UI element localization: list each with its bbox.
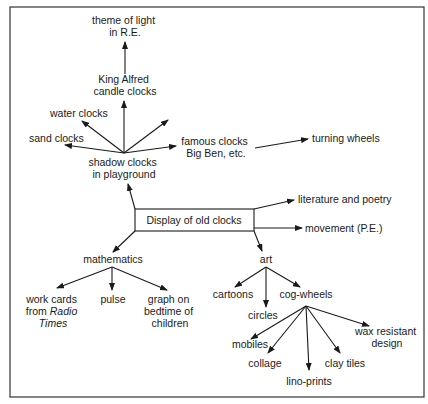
node-sand-clocks: sand clocks <box>29 132 84 144</box>
node-wax-resistant: wax resistant design <box>354 325 419 349</box>
edge-center-shadow <box>128 184 135 209</box>
edge-cog-lino <box>306 306 309 370</box>
edge-famous-turning <box>255 139 308 148</box>
edge-center-maths <box>113 231 135 252</box>
mind-map-diagram: Display of old clocks theme of light in … <box>0 0 428 404</box>
node-movement: movement (P.E.) <box>305 222 382 234</box>
edge-center-literature <box>254 200 294 209</box>
edge-art-cartoons <box>235 267 266 287</box>
edge-cog-wax <box>306 306 369 326</box>
node-collage: collage <box>248 357 281 369</box>
node-graph: graph on bedtime of children <box>144 293 196 329</box>
node-lino-prints: lino-prints <box>286 375 332 387</box>
node-clay-tiles: clay tiles <box>325 357 365 369</box>
edge-maths-graph <box>112 267 167 290</box>
node-mathematics: mathematics <box>83 253 143 265</box>
edge-center-art <box>254 231 262 251</box>
node-famous-clocks: famous clocks Big Ben, etc. <box>181 135 250 159</box>
edge-maths-workcards <box>57 267 112 288</box>
node-shadow-clocks: shadow clocks in playground <box>88 156 159 180</box>
node-king-alfred: King Alfred candle clocks <box>93 73 156 97</box>
node-cog-wheels: cog-wheels <box>279 288 332 300</box>
node-work-cards: work cards from Radio Times <box>25 293 80 329</box>
node-theme-of-light: theme of light in R.E. <box>92 14 158 38</box>
center-label: Display of old clocks <box>146 214 241 226</box>
node-cartoons: cartoons <box>213 288 253 300</box>
edge-art-cogwheels <box>266 267 300 287</box>
node-pulse: pulse <box>100 293 125 305</box>
node-art: art <box>260 253 272 265</box>
node-turning-wheels: turning wheels <box>312 132 380 144</box>
node-circles: circles <box>248 309 278 321</box>
node-literature: literature and poetry <box>298 193 392 205</box>
node-water-clocks: water clocks <box>49 107 108 119</box>
node-mobiles: mobiles <box>232 338 268 350</box>
edge-cog-clay <box>306 306 340 353</box>
